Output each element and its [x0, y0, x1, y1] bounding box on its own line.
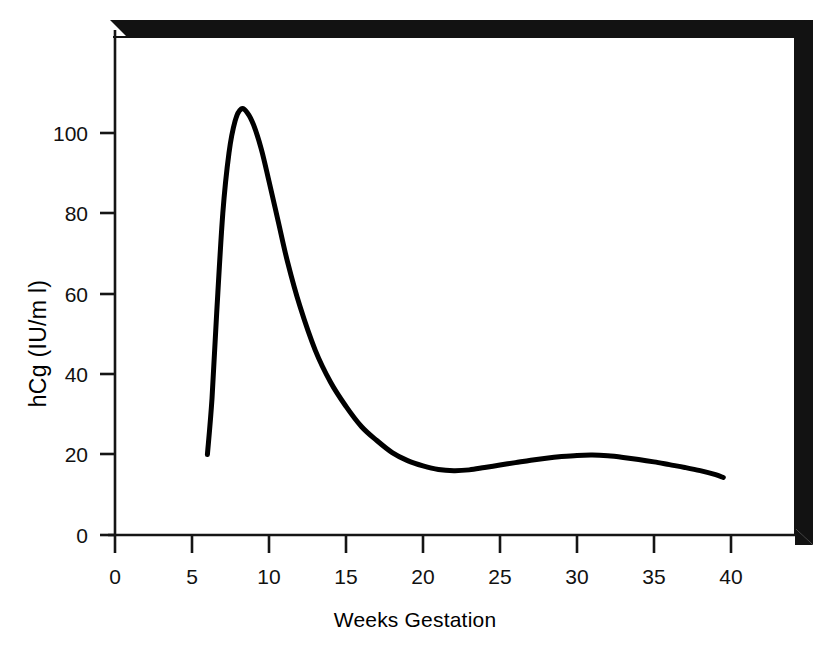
hcg-curve: [207, 109, 723, 478]
y-tick-label-100: 100: [30, 123, 88, 144]
x-tick-label-35: 35: [642, 566, 665, 587]
axes: [100, 30, 797, 553]
chart-figure: 0 20 40 60 80 100 0 5 10 15 20 25 30 35 …: [0, 0, 830, 654]
x-axis-title: Weeks Gestation: [0, 608, 830, 632]
x-tick-label-15: 15: [334, 566, 357, 587]
x-tick-label-30: 30: [565, 566, 588, 587]
x-tick-label-0: 0: [109, 566, 121, 587]
x-tick-label-5: 5: [186, 566, 198, 587]
x-tick-marks: [115, 535, 731, 553]
y-tick-label-0: 0: [30, 525, 88, 546]
chart-canvas: [0, 0, 830, 654]
y-tick-marks: [100, 133, 115, 535]
plot-frame: [110, 20, 813, 545]
x-tick-label-40: 40: [719, 566, 742, 587]
frame-top-band: [110, 20, 813, 38]
x-tick-label-10: 10: [257, 566, 280, 587]
x-tick-label-25: 25: [488, 566, 511, 587]
frame-right-band: [795, 20, 813, 545]
x-tick-label-20: 20: [411, 566, 434, 587]
y-axis-title: hCg (IU/m l): [25, 214, 52, 474]
